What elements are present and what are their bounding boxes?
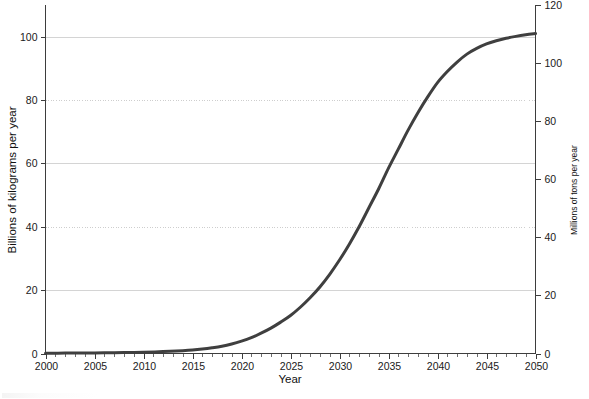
x-axis-tick-label: 2035 xyxy=(378,360,402,372)
x-axis-tick-label: 2025 xyxy=(280,360,304,372)
x-axis-tick-label: 2020 xyxy=(231,360,255,372)
y-left-axis-tick-group xyxy=(41,38,46,355)
x-axis-tick-label-group: 2000200520102015202020252030203520402045… xyxy=(35,360,549,372)
x-axis-tick-label: 2000 xyxy=(35,360,59,372)
y-right-axis-tick-label: 40 xyxy=(545,231,557,243)
chart-canvas: 2000200520102015202020252030203520402045… xyxy=(0,0,589,399)
y-right-axis-tick-label: 0 xyxy=(545,348,551,360)
x-axis-major-tick-group xyxy=(47,354,537,359)
y-left-axis-tick-label: 60 xyxy=(26,157,38,169)
x-axis-tick-label: 2050 xyxy=(525,360,549,372)
y-left-axis-title: Billions of kilograms per year xyxy=(6,106,18,253)
x-axis-tick-label: 2010 xyxy=(133,360,157,372)
page-edge-artifact xyxy=(2,393,98,398)
y-right-axis-tick-label-group: 020406080100120 xyxy=(545,0,563,360)
y-right-axis-tick-label: 100 xyxy=(545,57,563,69)
y-right-axis-title: Millions of tons per year xyxy=(569,145,579,235)
y-left-axis-tick-label: 80 xyxy=(26,94,38,106)
x-axis-tick-label: 2005 xyxy=(84,360,108,372)
gridline-group xyxy=(46,38,536,291)
y-left-axis-tick-label: 0 xyxy=(32,348,38,360)
y-right-axis-tick-label: 20 xyxy=(545,289,557,301)
y-right-axis-tick-group xyxy=(536,6,541,355)
y-right-axis-tick-label: 120 xyxy=(545,0,563,11)
y-left-axis-tick-label: 20 xyxy=(26,284,38,296)
y-right-axis-tick-label: 80 xyxy=(545,115,557,127)
y-left-axis-tick-label-group: 020406080100 xyxy=(20,31,38,360)
chart-figure: 2000200520102015202020252030203520402045… xyxy=(0,0,589,399)
y-left-axis-tick-label: 40 xyxy=(26,221,38,233)
x-axis-tick-label: 2030 xyxy=(329,360,353,372)
x-axis-tick-label: 2045 xyxy=(476,360,500,372)
x-axis-tick-label: 2015 xyxy=(182,360,206,372)
y-left-axis-tick-label: 100 xyxy=(20,31,38,43)
x-axis-title: Year xyxy=(278,373,301,385)
data-series-line xyxy=(46,34,536,354)
y-right-axis-tick-label: 60 xyxy=(545,173,557,185)
x-axis-tick-label: 2040 xyxy=(427,360,451,372)
